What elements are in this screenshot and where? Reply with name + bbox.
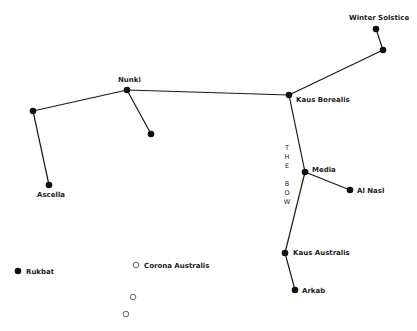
- star-label-rukbat: Rukbat: [26, 268, 55, 276]
- star-winter-solstice: [373, 26, 380, 33]
- star-rukbat: [15, 268, 22, 275]
- star-corona-australis-1: [133, 262, 139, 268]
- star-kaus-australis: [282, 250, 289, 257]
- constellation-line: [285, 253, 295, 290]
- star-nunki-branch: [148, 131, 155, 138]
- constellation-line: [376, 29, 383, 50]
- bow-letter: H: [285, 153, 290, 161]
- star-label-kaus-borealis: Kaus Borealis: [296, 96, 350, 104]
- constellation-line: [127, 90, 151, 134]
- star-al-nasl: [347, 187, 354, 194]
- star-corona-australis-2: [130, 294, 136, 300]
- constellation-line: [33, 90, 127, 111]
- constellation-line: [289, 95, 305, 172]
- star-label-kaus-australis: Kaus Australis: [293, 249, 350, 257]
- bow-letter: B: [285, 180, 289, 188]
- constellation-diagram: Winter SolsticeKaus BorealisNunkiAscella…: [0, 0, 417, 331]
- star-label-al-nasl: Al Nasl: [357, 187, 384, 195]
- star-west-star: [30, 108, 37, 115]
- star-corona-australis-3: [123, 311, 129, 317]
- star-label-ascella: Ascella: [37, 191, 65, 199]
- bow-letter: O: [284, 189, 289, 197]
- star-label-media: Media: [312, 166, 336, 174]
- star-label-winter-solstice: Winter Solstice: [349, 14, 409, 22]
- constellation-line: [127, 90, 289, 95]
- constellation-line: [289, 50, 383, 95]
- star-nunki: [124, 87, 131, 94]
- star-kaus-borealis: [286, 92, 293, 99]
- star-label-arkab: Arkab: [302, 287, 325, 295]
- bow-letter: T: [284, 144, 289, 152]
- star-labels: Winter SolsticeKaus BorealisNunkiAscella…: [26, 14, 409, 295]
- star-label-nunki: Nunki: [118, 76, 141, 84]
- constellation-line: [305, 172, 350, 190]
- the-bow-label: THEBOW: [284, 144, 291, 206]
- constellation-line: [33, 111, 49, 185]
- star-label-corona-australis-1: Corona Australis: [144, 262, 209, 270]
- star-ascella: [46, 182, 53, 189]
- star-bow-tip: [380, 47, 387, 54]
- bow-letter: E: [285, 162, 289, 170]
- bow-letter: W: [284, 198, 291, 206]
- star-arkab: [292, 287, 299, 294]
- star-media: [302, 169, 309, 176]
